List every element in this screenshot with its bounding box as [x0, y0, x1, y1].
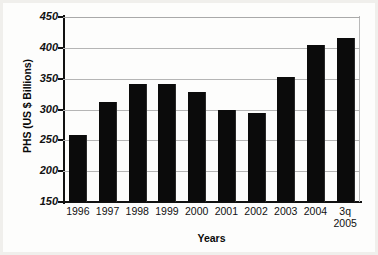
x-tick-label-line1: 2001: [215, 205, 238, 217]
bar-2004: [307, 45, 324, 202]
y-tick-label-150: 150: [18, 195, 58, 207]
y-tick-mark-400: [58, 47, 63, 49]
bar-1998: [129, 84, 146, 202]
y-tick-mark-300: [58, 109, 63, 111]
plot-area: [63, 17, 360, 202]
y-tick-mark-250: [58, 139, 63, 141]
bar-2002: [248, 113, 265, 202]
x-axis-title: Years: [63, 232, 360, 244]
y-tick-label-450: 450: [18, 10, 58, 22]
x-tick-label-line1: 1998: [126, 205, 149, 217]
bar-1999: [158, 84, 175, 202]
bar-2003: [277, 77, 294, 202]
y-tick-mark-150: [58, 201, 63, 203]
y-axis-tick-labels: 150200250300350400450: [14, 17, 58, 202]
scan-edge-left: [0, 0, 3, 255]
bar-2001: [218, 110, 235, 202]
x-tick-label-line1: 1999: [155, 205, 178, 217]
x-tick-label-line1: 2000: [185, 205, 208, 217]
x-tick-label-3q-2005: 3q2005: [325, 205, 365, 229]
bar-2000: [188, 92, 205, 202]
gridline-450: [63, 17, 360, 18]
x-tick-label-line1: 1996: [66, 205, 89, 217]
bar-1996: [69, 135, 86, 202]
y-tick-label-200: 200: [18, 164, 58, 176]
y-tick-label-300: 300: [18, 103, 58, 115]
x-tick-label-line1: 2004: [304, 205, 327, 217]
x-tick-label-line2: 2005: [325, 217, 365, 229]
bar-1997: [99, 102, 116, 202]
x-tick-label-line1: 1997: [96, 205, 119, 217]
bar-chart-figure: PHS (US $ Billions) 15020025030035040045…: [0, 0, 378, 255]
y-tick-label-350: 350: [18, 72, 58, 84]
x-tick-label-line1: 3q: [339, 205, 351, 217]
x-tick-label-line1: 2003: [274, 205, 297, 217]
y-tick-label-400: 400: [18, 41, 58, 53]
bar-3q-2005: [337, 38, 354, 202]
y-tick-mark-350: [58, 78, 63, 80]
scan-edge-top: [0, 0, 378, 3]
y-tick-mark-200: [58, 170, 63, 172]
y-tick-mark-450: [58, 16, 63, 18]
x-tick-label-line1: 2002: [244, 205, 267, 217]
y-tick-label-250: 250: [18, 133, 58, 145]
